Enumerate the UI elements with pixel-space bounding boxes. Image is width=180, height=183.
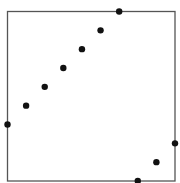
data-point-5 (97, 27, 103, 33)
data-point-1 (23, 102, 29, 108)
data-point-7 (135, 178, 141, 183)
points-group (4, 8, 178, 183)
plot-frame (8, 12, 176, 182)
data-point-8 (153, 159, 159, 165)
data-point-3 (60, 65, 66, 71)
data-point-0 (4, 121, 10, 127)
data-point-4 (79, 46, 85, 52)
data-point-9 (172, 140, 178, 146)
data-point-2 (42, 84, 48, 90)
data-point-6 (116, 8, 122, 14)
scatter-chart (0, 0, 180, 183)
